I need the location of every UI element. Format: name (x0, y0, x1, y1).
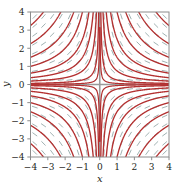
slope-segment (145, 51, 150, 54)
slope-segment (154, 24, 158, 28)
solution-curve (123, 112, 169, 166)
x-tick-label: −4 (24, 162, 38, 172)
y-tick-label: 4 (19, 7, 25, 17)
slope-segment (127, 80, 133, 81)
slope-segment (67, 114, 71, 118)
slope-segment (33, 24, 37, 28)
slope-segment (127, 89, 133, 90)
solution-curve (115, 4, 169, 67)
slope-segment (120, 32, 122, 37)
slope-segment (95, 113, 96, 119)
slope-segment (85, 69, 89, 73)
slope-segment (59, 141, 62, 146)
y-tick-label: −4 (11, 152, 25, 162)
slope-segment (32, 33, 37, 36)
slope-segment (162, 98, 168, 99)
y-tick-label: 0 (19, 80, 25, 90)
slope-segment (162, 106, 168, 108)
slope-segment (59, 123, 63, 127)
slope-segment (41, 24, 45, 28)
slope-segment (137, 23, 140, 28)
slope-segment (162, 33, 167, 36)
slope-segment (86, 132, 88, 138)
slope-segment (154, 14, 158, 18)
slope-segment (95, 122, 96, 128)
x-tick-label: −2 (58, 162, 71, 172)
slope-segment (68, 132, 71, 137)
slope-segment (162, 70, 168, 71)
solution-curve (31, 3, 77, 57)
slope-segment (163, 14, 167, 18)
slope-segment (41, 124, 46, 127)
slope-segment (86, 32, 88, 38)
y-tick-label: −1 (11, 98, 24, 108)
slope-segment (67, 51, 71, 55)
solution-curve (115, 103, 169, 166)
slope-segment (154, 42, 159, 45)
x-tick-label: 0 (97, 162, 103, 172)
slope-segment (58, 80, 64, 81)
slope-segment (68, 150, 70, 155)
slope-segment (59, 42, 63, 46)
slope-segment (112, 32, 114, 38)
x-tick-label: −1 (76, 162, 89, 172)
slope-segment (128, 51, 132, 55)
slope-segment (104, 122, 105, 128)
slope-segment (33, 14, 37, 18)
slope-segment (67, 80, 73, 81)
slope-segment (129, 14, 131, 19)
slope-segment (42, 14, 46, 18)
slope-segment (49, 61, 54, 63)
slope-segment (32, 52, 37, 54)
slope-segment (50, 14, 53, 19)
y-tick-label: 3 (19, 25, 25, 35)
slope-segment (145, 97, 151, 99)
slope-segment (77, 14, 79, 20)
slope-segment (50, 51, 55, 54)
y-tick-label: −2 (11, 116, 24, 126)
slope-segment (162, 24, 166, 28)
slope-segment (50, 115, 55, 118)
slope-segment (86, 150, 87, 156)
slope-segment (145, 106, 150, 108)
slope-segment (145, 132, 149, 136)
slope-segment (50, 132, 54, 136)
slope-field-figure: −4−3−2−10123443210−1−2−3−4 xy (0, 0, 182, 188)
slope-segment (162, 61, 168, 63)
y-axis-title: y (0, 81, 11, 88)
x-tick-label: −3 (41, 162, 55, 172)
solution-curve (123, 3, 169, 57)
slope-segment (32, 115, 37, 117)
slope-segment (77, 32, 79, 37)
slope-segment (137, 141, 140, 146)
slope-segment (104, 41, 105, 47)
slope-segment (146, 14, 149, 19)
slope-segment (85, 96, 89, 100)
slope-segment (137, 42, 141, 46)
slope-segment (120, 150, 122, 156)
slope-segment (128, 32, 131, 37)
slope-segment (154, 124, 159, 127)
slope-segment (145, 70, 151, 72)
slope-segment (145, 61, 150, 63)
x-tick-label: 1 (114, 162, 120, 172)
slope-segment (41, 141, 45, 145)
x-tick-label: 2 (132, 162, 138, 172)
slope-segment (128, 132, 131, 137)
slope-segment (154, 141, 158, 145)
slope-segment (111, 96, 115, 100)
slope-segment (49, 70, 55, 72)
slope-segment (67, 89, 73, 90)
slope-segment (42, 150, 46, 154)
slope-segment (95, 50, 96, 56)
slope-segment (136, 89, 142, 90)
slope-segment (86, 14, 87, 20)
slope-segment (32, 70, 38, 71)
solution-curve (31, 3, 50, 25)
slope-segment (146, 150, 149, 155)
slope-segment (50, 150, 53, 155)
slope-segment (68, 14, 70, 19)
slope-segment (154, 150, 158, 154)
plot-canvas: −4−3−2−10123443210−1−2−3−4 xy (0, 0, 182, 188)
slope-segment (68, 32, 71, 37)
